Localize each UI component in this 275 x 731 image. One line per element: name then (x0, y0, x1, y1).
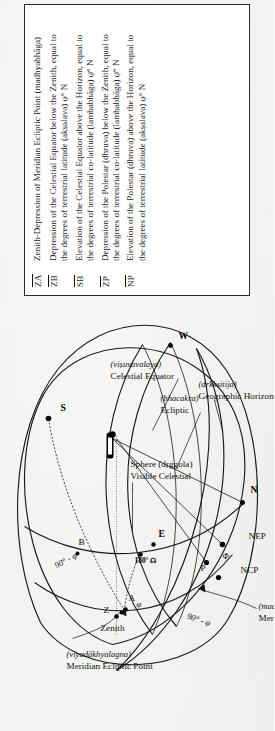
label-p: P (201, 563, 206, 573)
legend-symbol: NP (125, 261, 151, 287)
label-arc-90-minus-phi-lower: 90° - φ (186, 611, 212, 628)
label-celestial-equator: Celestial Equator (viṣuvavalaya) (111, 359, 175, 381)
svg-text:(madhyāhnavṛtta): (madhyāhnavṛtta) (259, 601, 275, 611)
legend-line-1: Elevation of the Polestar (dhruva) above… (125, 14, 136, 261)
label-node-180: 180° ☊ (135, 556, 157, 565)
legend-row: ZA Zenith-Depression of Meridian Eclipti… (32, 14, 48, 287)
svg-text:Sphere (dṛggola): Sphere (dṛggola) (131, 459, 193, 469)
legend-description: Depression of the Polestar (dhruva) belo… (100, 14, 126, 261)
label-arc-90-minus-phi-upper: 90° - φ (53, 550, 79, 570)
point-nep (220, 542, 226, 548)
legend-line-1: Depression of the Polestar (dhruva) belo… (100, 14, 111, 261)
legend-symbol: ZP (100, 261, 126, 287)
ray-to-nep (113, 439, 223, 545)
legend-line-1: Elevation of the Celestial Equator above… (74, 14, 85, 261)
legend-line-2: the degrees of terrestrial co-latitude (… (85, 14, 96, 261)
legend-symbol: ZA (32, 261, 48, 287)
svg-text:Ecliptic: Ecliptic (161, 405, 190, 415)
legend-symbol: ZB (48, 261, 74, 287)
label-n: N (251, 484, 258, 495)
svg-text:(dṛkkṣitija): (dṛkkṣitija) (199, 379, 237, 389)
celestial-sphere-diagram: Meridian Ecliptic Point (viyadākhyalagna… (0, 292, 274, 731)
label-meridian: Meridian (madhyāhnavṛtta) (259, 601, 275, 623)
point-n (240, 500, 245, 505)
point-ncp (216, 575, 221, 580)
point-s (46, 416, 52, 422)
label-ncp: NCP (241, 565, 259, 575)
label-phi-upper: φ (137, 599, 142, 609)
point-w (168, 343, 173, 348)
svg-text:(bhacakra): (bhacakra) (161, 393, 199, 403)
svg-text:Geographic Horizon: Geographic Horizon (199, 391, 275, 401)
label-b: B (79, 537, 85, 547)
svg-text:Celestial Equator: Celestial Equator (111, 371, 175, 381)
legend-row: NP Elevation of the Polestar (dhruva) ab… (125, 14, 151, 287)
label-meridian-ecliptic-point: Meridian Ecliptic Point (viyadākhyalagna… (67, 649, 154, 671)
legend-description: Elevation of the Polestar (dhruva) above… (125, 14, 151, 261)
legend-description: Elevation of the Celestial Equator above… (74, 14, 100, 261)
label-z: Z (104, 605, 110, 615)
leader-arrow-mep (120, 609, 127, 617)
legend-row: SB Elevation of the Celestial Equator ab… (74, 14, 100, 287)
legend-box: ZA Zenith-Depression of Meridian Eclipti… (24, 4, 250, 296)
leader-meridian (199, 589, 257, 609)
legend-line-2: the degrees of terrestrial co-latitude (… (111, 14, 122, 261)
legend-line-2: the degrees of terrestrial latitude (akṣ… (137, 14, 148, 261)
legend-line-1: Depression of the Celestial Equator belo… (48, 14, 59, 261)
svg-text:(viyadākhyalagna): (viyadākhyalagna) (67, 649, 132, 659)
label-zenith: Zenith (101, 623, 125, 633)
label-w: W (179, 330, 189, 341)
legend-table: ZA Zenith-Depression of Meridian Eclipti… (32, 14, 151, 287)
label-a: A (129, 593, 136, 603)
legend-row: ZB Depression of the Celestial Equator b… (48, 14, 74, 287)
svg-text:Meridian Ecliptic Point: Meridian Ecliptic Point (67, 661, 154, 671)
label-e: E (159, 528, 165, 539)
svg-text:(viṣuvavalaya): (viṣuvavalaya) (111, 359, 162, 369)
svg-text:Meridian: Meridian (259, 613, 275, 623)
legend-symbol: SB (74, 261, 100, 287)
ecliptic-arc (128, 343, 177, 627)
legend-description: Depression of the Celestial Equator belo… (48, 14, 74, 261)
declination-circle (25, 503, 245, 554)
label-s: S (61, 402, 66, 413)
point-e (151, 542, 155, 546)
diagram-svg: Meridian Ecliptic Point (viyadākhyalagna… (1, 292, 275, 731)
label-geographic-horizon: Geographic Horizon (dṛkkṣitija) (199, 379, 275, 401)
legend-row: ZP Depression of the Polestar (dhruva) b… (100, 14, 126, 287)
label-nep: NEP (249, 531, 266, 541)
observer-marker (107, 431, 116, 458)
legend-description: Zenith-Depression of Meridian Ecliptic P… (32, 14, 48, 261)
legend-panel: ZA Zenith-Depression of Meridian Eclipti… (0, 0, 274, 300)
legend-line-2: the degrees of terrestrial latitude (akṣ… (59, 14, 70, 261)
svg-text:Visible Celestial: Visible Celestial (131, 471, 192, 481)
label-visible-celestial-sphere: Visible Celestial Sphere (dṛggola) (131, 459, 193, 481)
label-phi-lower: Φ (223, 551, 230, 561)
legend-line-1: Zenith-Depression of Meridian Ecliptic P… (32, 14, 43, 261)
ray-to-p (117, 439, 207, 563)
